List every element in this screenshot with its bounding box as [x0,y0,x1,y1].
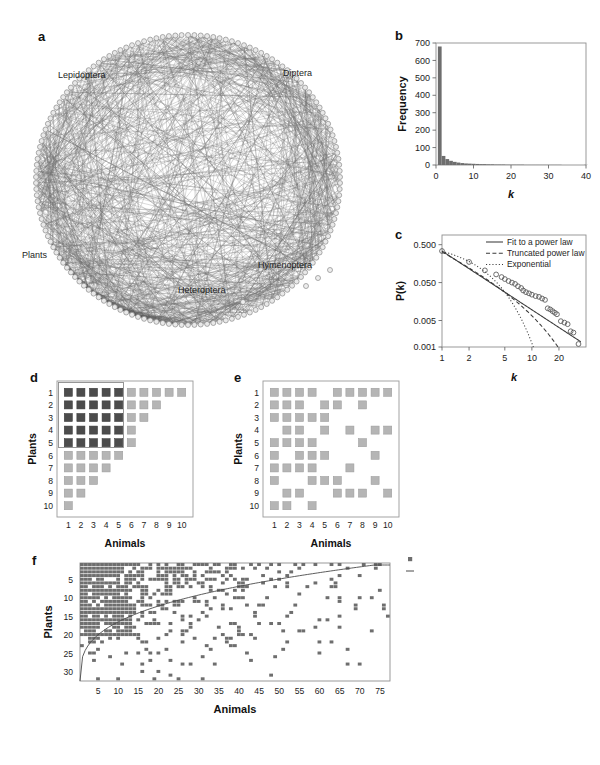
matrix-cell [233,563,237,566]
matrix-cell [80,589,84,592]
matrix-cell [295,413,303,421]
svg-text:5: 5 [96,686,101,696]
matrix-cell [100,574,104,577]
matrix-cell [370,596,374,599]
matrix-cell [104,633,108,636]
matrix-cell [100,600,104,603]
matrix-cell [140,670,144,673]
matrix-cell [378,563,382,566]
matrix-cell [80,600,84,603]
matrix-cell [64,502,72,510]
matrix-cell [177,677,181,680]
matrix-cell [112,633,116,636]
svg-text:200: 200 [415,125,430,135]
matrix-cell [201,611,205,614]
matrix-cell [358,439,366,447]
matrix-cell [112,567,116,570]
matrix-cell [64,426,72,434]
matrix-cell [127,426,135,434]
matrix-cell [120,585,124,588]
matrix-cell [132,611,136,614]
matrix-cell [80,633,84,636]
matrix-cell [140,567,144,570]
matrix-cell [77,439,85,447]
matrix-cell [205,604,209,607]
matrix-cell [346,489,354,497]
matrix-cell [285,581,289,584]
matrix-cell [108,618,112,621]
matrix-cell [156,600,160,603]
matrix-cell [241,581,245,584]
svg-text:10: 10 [113,686,123,696]
matrix-cell [193,637,197,640]
matrix-cell [189,585,193,588]
matrix-cell [165,607,169,610]
matrix-cell [221,633,225,636]
matrix-cell [116,615,120,618]
matrix-cell [330,578,334,581]
matrix-cell [92,574,96,577]
matrix-cell [108,563,112,566]
matrix-cell [140,570,144,573]
matrix-cell [209,570,213,573]
matrix-cell [308,388,316,396]
svg-text:20: 20 [154,686,164,696]
svg-text:55: 55 [295,686,305,696]
matrix-cell [237,626,241,629]
matrix-cell [80,563,84,566]
matrix-cell [115,401,123,409]
matrix-cell [257,604,261,607]
matrix-cell [233,589,237,592]
matrix-cell [140,585,144,588]
matrix-cell [213,596,217,599]
matrix-cell [382,607,386,610]
matrix-cell [269,674,273,677]
matrix-cell [201,563,205,566]
matrix-cell [333,489,341,497]
frequency-histogram: 0100200300400500600700010203040kFrequenc… [390,25,600,205]
matrix-cell [161,607,165,610]
matrix-cell [173,611,177,614]
matrix-cell [165,581,169,584]
matrix-cell [156,652,160,655]
matrix-cell [308,439,316,447]
svg-text:15: 15 [134,686,144,696]
network-label-diptera: Diptera [283,68,312,78]
matrix-cell [197,563,201,566]
matrix-cell [189,567,193,570]
matrix-cell [217,563,221,566]
svg-text:2: 2 [285,520,290,530]
matrix-cell [338,563,342,566]
matrix-cell [100,593,104,596]
matrix-cell [384,489,392,497]
matrix-cell [281,629,285,632]
matrix-cell [169,567,173,570]
matrix-cell [144,640,148,643]
matrix-cell [115,451,123,459]
network-label-plants: Plants [22,250,47,260]
matrix-cell [96,589,100,592]
svg-text:10: 10 [249,501,259,511]
matrix-cell [140,596,144,599]
matrix-cell [124,585,128,588]
matrix-cell [102,388,110,396]
svg-text:8: 8 [254,476,259,486]
matrix-cell [189,626,193,629]
matrix-cell [181,633,185,636]
svg-text:400: 400 [415,90,430,100]
panel-f: f 51015202530510152025303540455055606570… [22,553,600,763]
svg-text:2: 2 [79,520,84,530]
matrix-cell [128,581,132,584]
matrix-cell [205,615,209,618]
matrix-cell [120,567,124,570]
matrix-cell [181,615,185,618]
svg-text:5: 5 [254,438,259,448]
matrix-cell [108,622,112,625]
svg-text:10: 10 [383,520,393,530]
matrix-cell [225,593,229,596]
matrix-cell [80,578,84,581]
matrix-cell [80,626,84,629]
matrix-cell [84,604,88,607]
matrix-cell [64,439,72,447]
matrix-cell [169,629,173,632]
